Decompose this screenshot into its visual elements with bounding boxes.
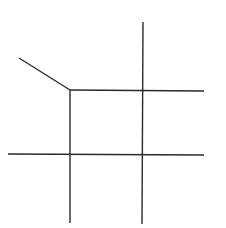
top-horizontal-edge <box>70 90 204 91</box>
diagram-segments <box>8 22 204 224</box>
line-diagram <box>0 0 226 228</box>
bottom-horizontal-edge <box>8 154 204 155</box>
diagonal-edge <box>19 58 70 90</box>
right-vertical-edge <box>142 22 143 224</box>
